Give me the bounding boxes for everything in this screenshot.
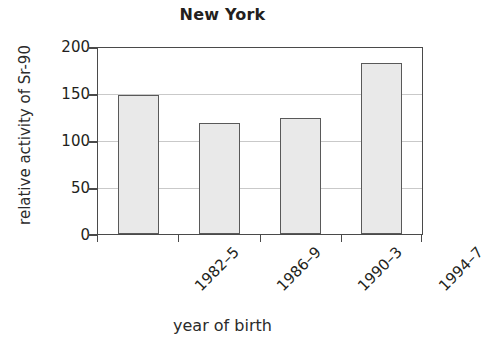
y-tick-mark-50 [88, 188, 97, 190]
x-tick-label-1982-5: 1982–5 [191, 243, 243, 295]
x-tick-label-1990-3: 1990–3 [354, 243, 406, 295]
y-tick-label-150: 150 [42, 87, 90, 102]
x-axis-tick-labels: 1982–5 1986–9 1990–3 1994–7 [97, 235, 423, 315]
y-tick-label-50: 50 [42, 181, 90, 196]
y-tick-mark-100 [88, 141, 97, 143]
x-tick-label-1986-9: 1986–9 [273, 243, 325, 295]
y-axis-title: relative activity of Sr-90 [16, 45, 34, 225]
plot-area [97, 47, 423, 235]
bar-1994-7 [361, 63, 402, 234]
y-tick-label-200: 200 [42, 40, 90, 55]
bar-1986-9 [199, 123, 240, 234]
y-tick-mark-200 [88, 47, 97, 49]
bar-1982-5 [118, 95, 159, 235]
bar-1990-3 [280, 118, 321, 234]
y-tick-mark-150 [88, 94, 97, 96]
y-axis-title-container: relative activity of Sr-90 [10, 30, 40, 240]
x-tick-label-1994-7: 1994–7 [435, 243, 485, 295]
y-tick-label-100: 100 [42, 134, 90, 149]
y-axis-tick-labels: 200 150 100 50 0 [42, 0, 90, 364]
y-tick-label-0: 0 [42, 228, 90, 243]
x-axis-title: year of birth [0, 316, 445, 335]
y-tick-mark-0 [88, 234, 97, 236]
